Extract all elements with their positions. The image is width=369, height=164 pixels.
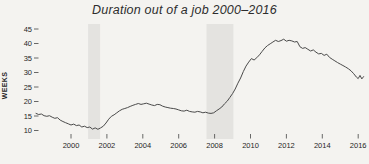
x-tick-label: 2012 (278, 141, 295, 150)
chart-card: 1015202530354045200020022004200620082010… (0, 0, 369, 164)
x-tick-label: 2000 (63, 141, 80, 150)
line-chart: 1015202530354045200020022004200620082010… (0, 0, 369, 164)
y-tick-label: 20 (24, 97, 32, 106)
x-tick-label: 2014 (314, 141, 331, 150)
x-tick-label: 2016 (350, 141, 367, 150)
recession-band (207, 24, 234, 139)
y-tick-label: 30 (24, 68, 32, 77)
data-line (36, 39, 364, 129)
x-tick-label: 2006 (170, 141, 187, 150)
y-tick-label: 25 (24, 83, 32, 92)
y-axis-title: WEEKS (1, 56, 8, 116)
chart-title: Duration out of a job 2000–2016 (0, 3, 369, 17)
y-tick-label: 15 (24, 112, 32, 121)
x-tick-label: 2010 (242, 141, 259, 150)
y-tick-label: 45 (24, 25, 32, 34)
recession-band (88, 24, 100, 139)
y-tick-label: 40 (24, 39, 32, 48)
x-tick-label: 2008 (206, 141, 223, 150)
y-tick-label: 35 (24, 54, 32, 63)
x-tick-label: 2004 (134, 141, 151, 150)
y-tick-label: 10 (24, 126, 32, 135)
x-tick-label: 2002 (99, 141, 116, 150)
